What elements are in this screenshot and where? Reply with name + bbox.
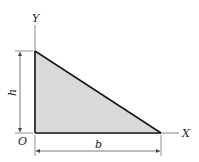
origin-label: O xyxy=(18,135,27,148)
y-axis-label: Y xyxy=(32,12,41,25)
base-label: b xyxy=(95,138,102,151)
triangle-diagram: Y X O h b xyxy=(0,0,199,162)
height-label: h xyxy=(6,89,19,96)
x-axis-label: X xyxy=(181,127,191,140)
diagram-canvas: Y X O h b xyxy=(0,0,199,162)
